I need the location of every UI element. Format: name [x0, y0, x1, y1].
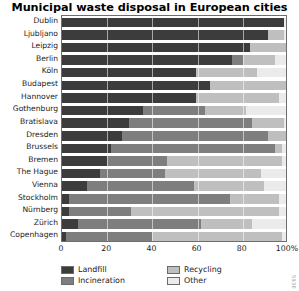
- side-credit-label: 5936: [291, 275, 297, 289]
- x-axis-tick-100pct: 100%: [276, 244, 298, 253]
- bar-segment-incineration: [232, 55, 243, 65]
- bar-segment-landfill: [62, 207, 69, 217]
- bar-row: [62, 207, 286, 217]
- bar-segment-other: [282, 156, 286, 166]
- plot-area: [61, 15, 287, 242]
- bar-segment-landfill: [62, 81, 210, 91]
- bar-segment-incineration: [143, 106, 206, 116]
- bar-segment-recycling: [275, 144, 282, 154]
- y-axis-category-labels: DublinLjubljanoLeipzigBerlinKölnBudapest…: [0, 15, 58, 242]
- bar-row: [62, 93, 286, 103]
- bar-segment-recycling: [250, 43, 286, 53]
- bar-segment-other: [275, 55, 286, 65]
- bar-segment-landfill: [62, 93, 196, 103]
- bar-row: [62, 194, 286, 204]
- bar-row: [62, 81, 286, 91]
- bar-segment-recycling: [196, 68, 256, 78]
- bar-segment-other: [284, 30, 286, 40]
- bar-segment-landfill: [62, 156, 107, 166]
- bar-segment-incineration: [107, 156, 167, 166]
- y-axis-label-vienna: Vienna: [0, 181, 58, 189]
- legend-label-incineration: Incineration: [78, 276, 125, 285]
- bar-segment-other: [284, 118, 286, 128]
- bar-row: [62, 55, 286, 65]
- y-axis-label-bratislava: Bratislava: [0, 118, 58, 126]
- bar-segment-recycling: [196, 93, 279, 103]
- bar-row: [62, 118, 286, 128]
- legend-entry-incineration[interactable]: Incineration: [61, 276, 125, 285]
- bar-segment-landfill: [62, 181, 87, 191]
- y-axis-label-gothenburg: Gothenburg: [0, 105, 58, 113]
- legend-swatch-other: [167, 277, 180, 285]
- bar-segment-incineration: [66, 232, 151, 242]
- y-axis-label-köln: Köln: [0, 67, 58, 75]
- y-axis-label-berlin: Berlin: [0, 55, 58, 63]
- legend-entry-landfill[interactable]: Landfill: [61, 265, 107, 274]
- bar-segment-incineration: [87, 181, 195, 191]
- bar-row: [62, 68, 286, 78]
- legend-entry-recycling[interactable]: Recycling: [167, 265, 222, 274]
- bar-segment-landfill: [62, 43, 250, 53]
- legend-swatch-landfill: [61, 266, 74, 274]
- bar-row: [62, 219, 286, 229]
- bar-segment-recycling: [210, 81, 286, 91]
- legend-label-landfill: Landfill: [78, 265, 107, 274]
- legend-swatch-incineration: [61, 277, 74, 285]
- x-axis-tick-20: 20: [101, 244, 111, 253]
- bar-segment-other: [279, 207, 286, 217]
- bar-row: [62, 30, 286, 40]
- bar-segment-recycling: [152, 232, 282, 242]
- bar-segment-other: [279, 194, 286, 204]
- x-axis-tick-labels: 020406080100%: [0, 244, 299, 256]
- bar-segment-incineration: [69, 207, 132, 217]
- bar-segment-other: [261, 169, 286, 179]
- chart-title: Municipal waste disposal in European cit…: [0, 1, 299, 14]
- bar-segment-recycling: [131, 207, 279, 217]
- y-axis-label-dublin: Dublin: [0, 17, 58, 25]
- bar-segment-landfill: [62, 55, 232, 65]
- legend-label-other: Other: [184, 276, 206, 285]
- bar-segment-other: [252, 219, 286, 229]
- bar-segment-landfill: [62, 106, 143, 116]
- bar-segment-recycling: [230, 194, 279, 204]
- y-axis-label-copenhagen: Copenhagen: [0, 231, 58, 239]
- bar-segment-landfill: [62, 194, 69, 204]
- x-axis-tick-60: 60: [192, 244, 202, 253]
- bar-segment-landfill: [62, 118, 129, 128]
- bar-segment-recycling: [268, 131, 286, 141]
- y-axis-label-the-hague: The Hague: [0, 168, 58, 176]
- bar-row: [62, 181, 286, 191]
- y-axis-label-leipzig: Leipzig: [0, 42, 58, 50]
- bar-segment-incineration: [78, 219, 201, 229]
- bar-segment-other: [282, 232, 286, 242]
- bar-segment-incineration: [100, 169, 165, 179]
- bar-segment-landfill: [62, 30, 268, 40]
- legend-entry-other[interactable]: Other: [167, 276, 206, 285]
- bar-segment-recycling: [243, 55, 274, 65]
- y-axis-label-budapest: Budapest: [0, 80, 58, 88]
- bar-segment-landfill: [62, 169, 100, 179]
- bar-segment-other: [246, 106, 286, 116]
- bar-segment-landfill: [62, 144, 111, 154]
- bar-segment-landfill: [62, 18, 284, 28]
- bar-rows-container: [62, 16, 286, 241]
- bar-segment-other: [284, 18, 286, 28]
- bar-row: [62, 156, 286, 166]
- y-axis-label-zürich: Zürich: [0, 219, 58, 227]
- bar-segment-other: [257, 68, 286, 78]
- y-axis-label-bremen: Bremen: [0, 156, 58, 164]
- bar-segment-recycling: [252, 118, 283, 128]
- y-axis-label-hannover: Hannover: [0, 93, 58, 101]
- bar-row: [62, 232, 286, 242]
- bar-row: [62, 43, 286, 53]
- y-axis-label-dresden: Dresden: [0, 131, 58, 139]
- bar-segment-other: [264, 181, 286, 191]
- bar-segment-recycling: [268, 30, 284, 40]
- x-axis-tick-0: 0: [59, 244, 64, 253]
- y-axis-label-ljubljano: Ljubljano: [0, 30, 58, 38]
- bar-segment-other: [282, 144, 286, 154]
- x-axis-tick-80: 80: [237, 244, 247, 253]
- bar-row: [62, 18, 286, 28]
- chart-legend: LandfillIncinerationRecyclingOther: [61, 265, 287, 287]
- bar-segment-landfill: [62, 131, 122, 141]
